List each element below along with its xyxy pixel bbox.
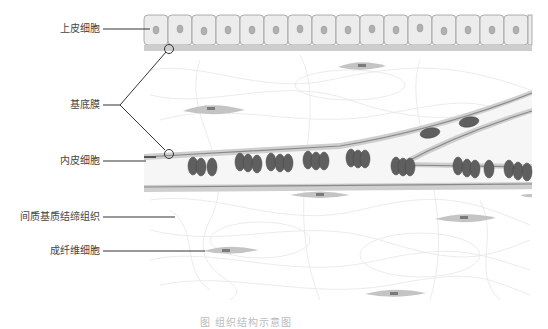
epithelial-layer [144, 15, 532, 45]
pointer-circles [165, 45, 174, 159]
label-epithelial-cells: 上皮细胞 [60, 23, 100, 35]
basement-membrane [144, 45, 532, 51]
label-basement-membrane: 基底膜 [70, 99, 100, 111]
label-fibroblast: 成纤维细胞 [50, 245, 100, 257]
figure-caption: 图 组织结构示意图 [200, 314, 292, 329]
leader-lines [103, 29, 205, 251]
label-endothelial-cells: 内皮细胞 [60, 155, 100, 167]
label-interstitial-matrix: 间质基质结缔组织 [20, 211, 100, 223]
